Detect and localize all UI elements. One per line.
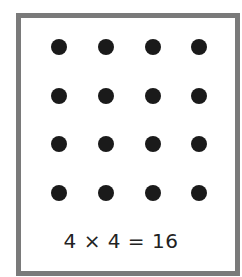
dot [191, 88, 207, 104]
dot [191, 39, 207, 55]
dot [145, 88, 161, 104]
dot [145, 39, 161, 55]
dot [145, 185, 161, 201]
dot [98, 88, 114, 104]
dot [51, 185, 67, 201]
dot [98, 185, 114, 201]
dot [51, 88, 67, 104]
dot [145, 136, 161, 152]
dot [51, 39, 67, 55]
dot [191, 136, 207, 152]
dot [191, 185, 207, 201]
multiplication-caption: 4 × 4 = 16 [0, 229, 242, 253]
dot [98, 39, 114, 55]
dot [98, 136, 114, 152]
dot [51, 136, 67, 152]
